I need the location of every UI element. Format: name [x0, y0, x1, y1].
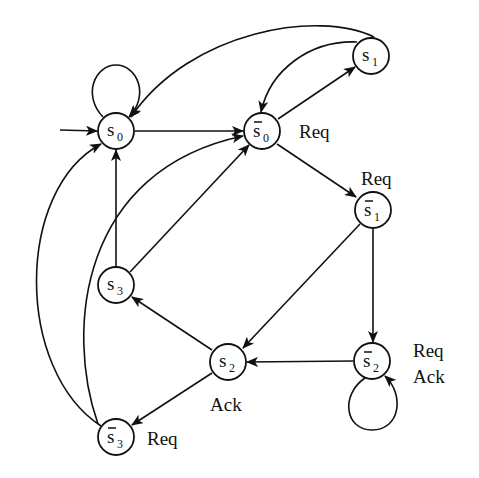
node-label: s — [362, 44, 369, 65]
edge-s1-to-s0bar — [261, 42, 357, 112]
node-subscript: 3 — [117, 284, 123, 298]
node-label: s — [363, 350, 370, 371]
edge-s1-to-s0 — [131, 26, 374, 117]
node-s1: s 1 — [353, 38, 389, 74]
annotation-s2bar-ack: Ack — [413, 366, 445, 387]
edge-s3-to-s0bar — [130, 145, 249, 272]
edge-initial-to-s0 — [60, 130, 97, 131]
annotations: Req Req Req Ack Ack Req — [147, 121, 445, 449]
node-subscript: 0 — [263, 131, 269, 145]
node-circle — [353, 38, 389, 74]
node-subscript: 3 — [117, 437, 123, 451]
annotation-s2-ack: Ack — [210, 394, 242, 415]
node-s0: s 0 — [98, 113, 134, 149]
edge-s0-self-loop — [92, 65, 139, 117]
edge-s1bar-to-s2 — [243, 224, 360, 348]
node-subscript: 1 — [372, 55, 378, 69]
edge-s2bar-self-loop — [349, 376, 397, 430]
node-label: s — [364, 199, 371, 220]
node-s2bar: s 2 — [354, 343, 390, 379]
node-circle — [98, 419, 134, 455]
node-label: s — [253, 120, 260, 141]
node-circle — [355, 192, 391, 228]
node-circle — [210, 344, 246, 380]
annotation-s0bar-req: Req — [299, 121, 330, 142]
edge-s2-to-s3bar — [132, 373, 212, 425]
node-label: s — [219, 350, 226, 371]
edge-s2-to-s3 — [132, 297, 212, 350]
node-s2: s 2 — [210, 344, 246, 380]
node-subscript: 2 — [229, 361, 235, 375]
node-label: s — [107, 119, 114, 140]
node-label: s — [107, 426, 114, 447]
annotation-s3bar-req: Req — [147, 428, 178, 449]
node-circle — [244, 113, 280, 149]
node-circle — [98, 267, 134, 303]
node-label: s — [107, 273, 114, 294]
node-s1bar: s 1 — [355, 192, 391, 228]
edge-s2bar-to-s2 — [247, 361, 353, 362]
node-s0bar: s 0 — [244, 113, 280, 149]
node-circle — [354, 343, 390, 379]
edge-s0bar-to-s1 — [278, 67, 355, 119]
edge-s0bar-to-s1bar — [277, 144, 356, 197]
node-s3bar: s 3 — [98, 419, 134, 455]
edge-s3bar-to-s0 — [37, 144, 102, 426]
annotation-s2bar-req: Req — [413, 340, 444, 361]
node-circle — [98, 113, 134, 149]
annotation-s1bar-req: Req — [361, 168, 392, 189]
node-subscript: 2 — [373, 361, 379, 375]
node-s3: s 3 — [98, 267, 134, 303]
state-diagram: s 0 s 0 s 1 s 1 s 3 s 2 s 2 s 3 — [0, 0, 479, 478]
node-subscript: 1 — [374, 210, 380, 224]
node-subscript: 0 — [117, 130, 123, 144]
